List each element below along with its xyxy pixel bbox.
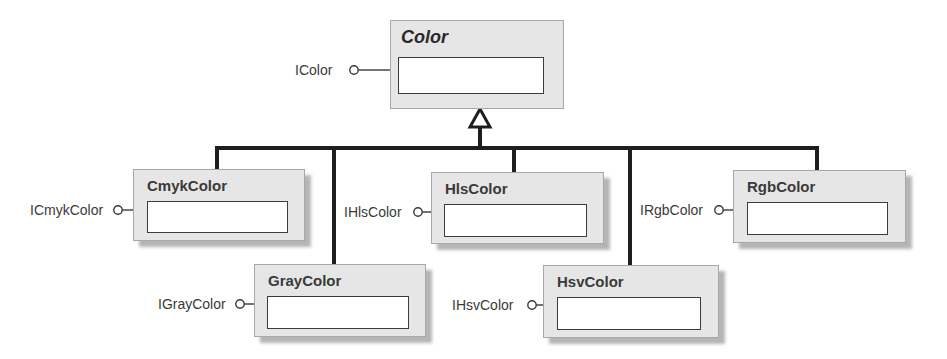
class-color-body (398, 57, 544, 94)
class-hsvcolor-body (557, 297, 701, 330)
class-graycolor-title: GrayColor (268, 272, 341, 289)
class-hsvcolor: HsvColor (543, 265, 719, 338)
lollipop-ihsvcolor-icon (528, 301, 536, 309)
lollipop-igraycolor-icon (236, 300, 244, 308)
class-hlscolor-body (444, 204, 587, 237)
interface-irgbcolor-label: IRgbColor (640, 202, 703, 218)
class-rgbcolor-title: RgbColor (747, 178, 815, 195)
class-rgbcolor-body (747, 202, 888, 235)
class-hlscolor: HlsColor (431, 172, 604, 244)
interface-icolor-label: IColor (295, 62, 332, 78)
class-graycolor-body (267, 296, 409, 329)
lollipop-icolor-icon (350, 66, 358, 74)
generalization-arrowhead-icon (470, 109, 490, 127)
class-hsvcolor-title: HsvColor (557, 273, 624, 290)
class-cmykcolor-title: CmykColor (147, 177, 227, 194)
interface-ihsvcolor-label: IHsvColor (452, 297, 513, 313)
lollipop-icmykcolor-icon (114, 206, 122, 214)
class-hlscolor-title: HlsColor (445, 180, 508, 197)
lollipop-ihlscolor-icon (414, 208, 422, 216)
class-cmykcolor-body (147, 201, 288, 233)
interface-ihlscolor-label: IHlsColor (344, 204, 402, 220)
lollipop-irgbcolor-icon (715, 206, 723, 214)
class-cmykcolor: CmykColor (133, 169, 305, 241)
interface-igraycolor-label: IGrayColor (158, 296, 226, 312)
class-graycolor: GrayColor (254, 264, 426, 337)
class-color: Color (390, 20, 564, 109)
class-color-title: Color (401, 27, 448, 48)
interface-icmykcolor-label: ICmykColor (30, 202, 103, 218)
class-rgbcolor: RgbColor (733, 170, 906, 243)
